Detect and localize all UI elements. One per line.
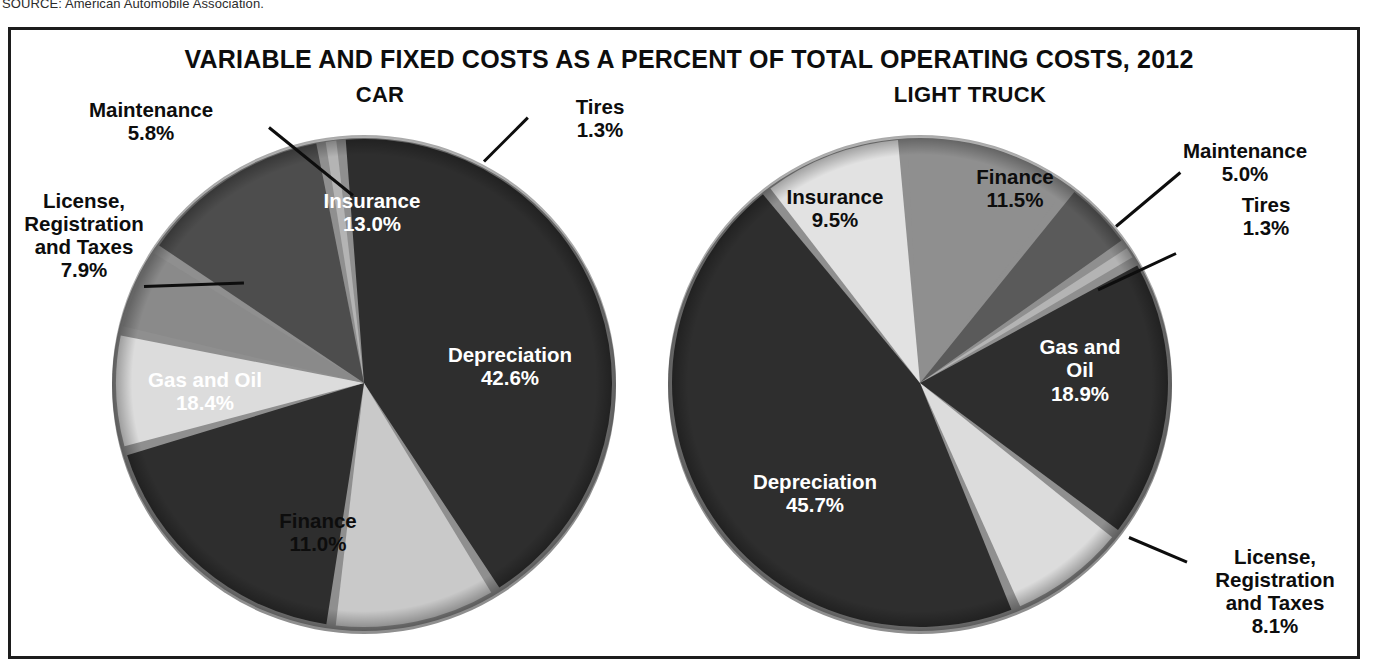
chart-title: VARIABLE AND FIXED COSTS AS A PERCENT OF… xyxy=(0,45,1378,74)
chart-page: SOURCE: American Automobile Association.… xyxy=(0,0,1378,669)
label-truck-maintenance: Maintenance 5.0% xyxy=(1130,140,1360,186)
label-car-maintenance: Maintenance 5.8% xyxy=(36,99,266,145)
label-truck-depreciation: Depreciation 45.7% xyxy=(700,470,930,517)
label-car-depreciation: Depreciation 42.6% xyxy=(400,343,620,390)
label-car-finance: Finance 11.0% xyxy=(238,509,398,556)
label-truck-tires: Tires 1.3% xyxy=(1196,194,1336,240)
label-car-license: License, Registration and Taxes 7.9% xyxy=(0,190,174,282)
label-car-insurance: Insurance 13.0% xyxy=(282,189,462,236)
label-car-gas-and-oil: Gas and Oil 18.4% xyxy=(100,368,310,415)
label-truck-gas-and-oil: Gas and Oil 18.9% xyxy=(1000,335,1160,405)
source-note: SOURCE: American Automobile Association. xyxy=(2,0,264,11)
panel-title-car: CAR xyxy=(310,82,450,108)
label-truck-license: License, Registration and Taxes 8.1% xyxy=(1180,546,1370,638)
label-truck-finance: Finance 11.5% xyxy=(940,165,1090,212)
label-car-tires: Tires 1.3% xyxy=(540,96,660,142)
panel-title-truck: LIGHT TRUCK xyxy=(855,82,1085,108)
label-truck-insurance: Insurance 9.5% xyxy=(740,185,930,232)
